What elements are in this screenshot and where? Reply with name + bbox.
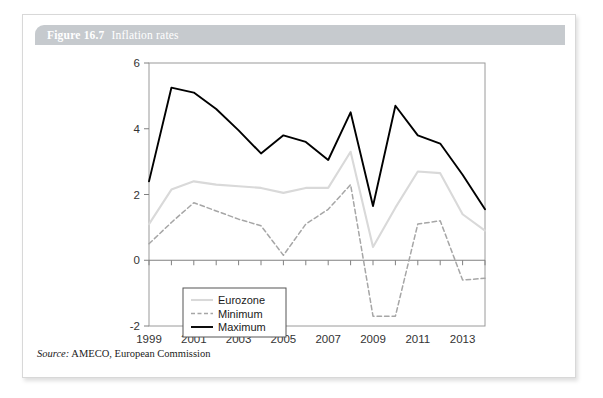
x-tick-label: 2011	[405, 333, 430, 345]
series-line-maximum	[149, 88, 485, 210]
x-tick-label: 2009	[360, 333, 386, 345]
source-text: AMECO, European Commission	[71, 348, 210, 359]
legend-label-eurozone: Eurozone	[218, 294, 265, 306]
y-tick-label: 4	[134, 123, 141, 135]
legend-label-minimum: Minimum	[218, 308, 263, 320]
series-line-eurozone	[149, 152, 485, 247]
source-label: Source:	[37, 348, 69, 359]
y-tick-label: 0	[134, 254, 140, 266]
chart-legend: EurozoneMinimumMaximum	[183, 288, 286, 337]
series-group	[149, 88, 485, 316]
y-tick-label: -2	[130, 320, 140, 332]
x-tick-label: 2013	[450, 333, 476, 345]
y-tick-label: 6	[134, 57, 140, 69]
plot-frame	[149, 63, 485, 326]
inflation-rates-chart: -20246 19992001200320052007200920112013 …	[23, 15, 577, 379]
legend-label-maximum: Maximum	[218, 321, 266, 333]
x-tick-label: 1999	[136, 333, 162, 345]
x-tick-label: 2007	[315, 333, 341, 345]
figure-card: Figure 16.7 Inflation rates -20246 19992…	[22, 14, 576, 378]
y-tick-label: 2	[134, 189, 140, 201]
source-line: Source: AMECO, European Commission	[37, 348, 210, 359]
